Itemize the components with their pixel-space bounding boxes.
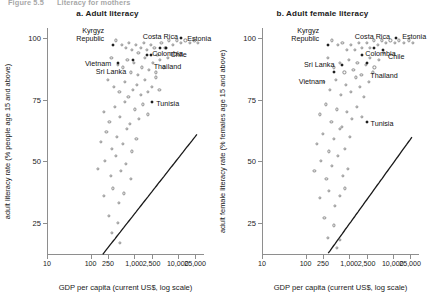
country-label: Chile [170, 51, 186, 59]
highlighted-country-point [327, 44, 330, 47]
panel-a-plot-area: 100755025101002501,0002,50010,00025,000K… [47, 28, 204, 255]
y-axis-tick-label: 25 [248, 218, 256, 227]
country-label: Vietnam [299, 78, 325, 86]
panel-b-y-axis-label-text: adult female literacy rate (% females ag… [219, 50, 228, 233]
highlighted-country-point [151, 101, 154, 104]
x-axis-tick [134, 255, 135, 259]
x-axis-tick-label: 25,000 [399, 260, 421, 268]
x-axis-tick-label: 10 [258, 260, 266, 268]
highlighted-country-point [112, 44, 115, 47]
y-axis-tick-label: 100 [28, 33, 41, 42]
x-axis-tick-label: 2,500 [358, 260, 376, 268]
y-axis-tick-label: 50 [248, 157, 256, 166]
highlighted-country-point [361, 54, 364, 57]
country-label: Tunisia [371, 120, 394, 128]
x-axis-tick [47, 255, 48, 259]
y-axis-tick-label: 75 [33, 95, 41, 104]
figure-container: Figure 5.5Literacy for mothers a. Adult … [0, 0, 431, 306]
x-axis-tick [195, 255, 196, 259]
country-label: Costa Rica [143, 33, 178, 41]
highlighted-country-point [395, 36, 398, 39]
x-axis-tick [367, 255, 368, 259]
country-label: Estonia [187, 35, 211, 43]
panel-adult-literacy: a. Adult literacy adult literacy rate (%… [0, 0, 215, 306]
y-axis-tick-label: 100 [243, 33, 256, 42]
country-label: Sri Lanka [304, 61, 334, 69]
country-label: Chile [388, 53, 404, 61]
x-axis-tick [152, 255, 153, 259]
x-axis-tick [178, 255, 179, 259]
country-label: Sri Lanka [96, 68, 126, 76]
x-axis-tick [306, 255, 307, 259]
highlighted-country-point [180, 36, 183, 39]
panel-a-y-axis-label-text: adult literacy rate (% people age 15 and… [4, 64, 13, 219]
panel-b-y-axis-label: adult female literacy rate (% females ag… [217, 28, 229, 255]
x-axis-tick [349, 255, 350, 259]
panel-a-y-axis-label: adult literacy rate (% people age 15 and… [2, 28, 14, 255]
country-label: KyrgyzRepublic [291, 27, 319, 43]
x-axis-tick [323, 255, 324, 259]
country-label: Thailand [370, 72, 398, 80]
panel-adult-female-literacy: b. Adult female literacy adult female li… [215, 0, 430, 306]
fitted-trend-curve [262, 28, 419, 255]
y-axis-tick-label: 75 [248, 95, 256, 104]
x-axis-tick [108, 255, 109, 259]
country-label: Tunisia [156, 100, 179, 108]
panel-b-x-axis-label: GDP per capita (current US$, log scale) [262, 283, 419, 292]
country-label: Thailand [154, 63, 182, 71]
highlighted-country-point [132, 59, 135, 62]
x-axis-tick-label: 25,000 [184, 260, 206, 268]
x-axis-tick-label: 2,500 [143, 260, 161, 268]
x-axis-tick-label: 1,000 [340, 260, 358, 268]
x-axis-tick [393, 255, 394, 259]
x-axis-tick-label: 1,000 [125, 260, 143, 268]
y-axis-tick-label: 25 [33, 218, 41, 227]
highlighted-country-point [366, 61, 369, 64]
x-axis-tick [262, 255, 263, 259]
panel-b-title: b. Adult female literacy [215, 9, 430, 18]
country-label: Costa Rica [355, 33, 390, 41]
panel-a-title: a. Adult literacy [0, 9, 215, 18]
panel-b-plot-area: 100755025101002501,0002,50010,00025,000K… [262, 28, 419, 255]
panel-a-x-axis-label: GDP per capita (current US$, log scale) [47, 283, 204, 292]
highlighted-country-point [333, 71, 336, 74]
country-label: KyrgyzRepublic [76, 27, 104, 43]
y-axis-tick-label: 50 [33, 157, 41, 166]
x-axis-tick-label: 100 [85, 260, 97, 268]
x-axis-tick [410, 255, 411, 259]
country-label: Estonia [402, 33, 426, 41]
x-axis-tick-label: 250 [102, 260, 114, 268]
highlighted-country-point [117, 61, 120, 64]
x-axis-tick-label: 250 [317, 260, 329, 268]
highlighted-country-point [341, 64, 344, 67]
highlighted-country-point [365, 120, 368, 123]
x-axis-tick [91, 255, 92, 259]
x-axis-tick-label: 10 [43, 260, 51, 268]
x-axis-tick-label: 100 [300, 260, 312, 268]
